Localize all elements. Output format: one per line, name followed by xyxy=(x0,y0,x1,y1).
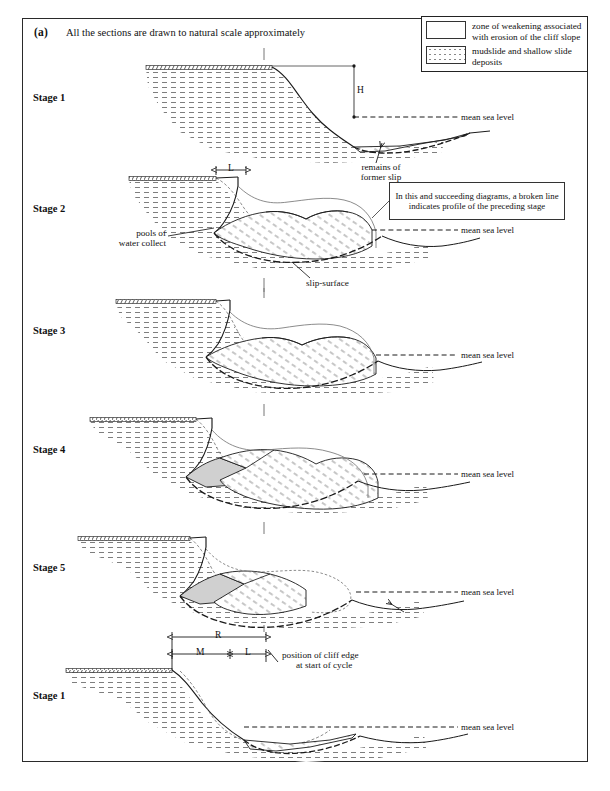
stage-label-4: Stage 4 xyxy=(33,444,65,455)
mean-sea-level-label: mean sea level xyxy=(461,350,514,360)
former-slip-deposit xyxy=(244,734,356,751)
stage-label-2: Stage 2 xyxy=(33,203,65,214)
mean-sea-level-label: mean sea level xyxy=(461,587,514,597)
stage-1-section xyxy=(146,48,490,163)
upper-ground-line xyxy=(190,537,206,538)
cliff-edge-position-label-line1: position of cliff edge xyxy=(282,650,359,660)
upper-ground-line xyxy=(216,300,230,301)
mean-sea-level-label: mean sea level xyxy=(461,112,514,122)
stage-4-section xyxy=(90,404,470,514)
ground-surface-cap xyxy=(116,300,216,304)
slip-surface-label: slip-surface xyxy=(306,278,349,288)
ground-surface-cap xyxy=(90,418,196,422)
cliff-recession-diagram xyxy=(0,0,610,791)
mean-sea-level-label: mean sea level xyxy=(461,225,514,235)
zone-of-weakening-fill xyxy=(66,672,426,762)
cliff-edge-leader-line xyxy=(268,650,278,662)
mean-sea-level-label: mean sea level xyxy=(461,722,514,732)
zone-of-weakening-fill xyxy=(146,69,444,163)
stage-label-3: Stage 3 xyxy=(33,325,65,336)
dimension-R-label: R xyxy=(215,630,221,640)
stage-5-section xyxy=(78,522,464,630)
pools-of-water-label-line1: pools of xyxy=(92,228,166,238)
stage-label-1: Stage 1 xyxy=(33,92,65,103)
seabed-line xyxy=(470,131,490,133)
pools-of-water-label-line2: water collect xyxy=(86,238,166,248)
note-callout: In this and succeeding diagrams, a broke… xyxy=(389,182,565,220)
cliff-edge-position-label-line2: at start of cycle xyxy=(296,660,352,670)
ground-surface-cap xyxy=(66,669,172,673)
ground-surface-cap xyxy=(78,537,190,541)
stage-label-5: Stage 5 xyxy=(33,562,65,573)
mean-sea-level-label: mean sea level xyxy=(461,469,514,479)
seabed-line xyxy=(382,236,480,247)
note-leader-line xyxy=(372,201,389,218)
length-symbol-label-stage2: L xyxy=(228,163,234,173)
remains-of-former-slip-label-line2: former slip xyxy=(345,172,417,182)
upper-ground-line xyxy=(196,418,212,419)
upper-ground-line xyxy=(216,177,238,178)
stage-3-section xyxy=(116,288,482,396)
dimension-L-label: L xyxy=(245,647,251,657)
ground-surface-cap xyxy=(129,177,216,181)
height-symbol-label: H xyxy=(357,85,364,95)
dimension-M-label: M xyxy=(196,647,204,657)
remains-of-former-slip-label-line1: remains of xyxy=(345,162,417,172)
ground-surface-cap xyxy=(146,66,272,70)
stage-1-repeat-section xyxy=(66,625,468,762)
stage-label-6: Stage 1 xyxy=(33,690,65,701)
